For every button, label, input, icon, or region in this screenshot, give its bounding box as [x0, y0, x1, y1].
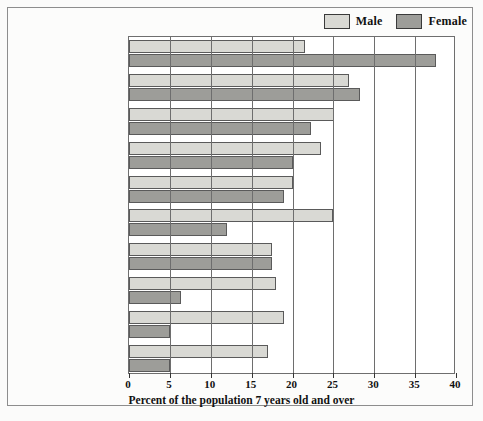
bar-male — [129, 209, 333, 222]
gridline — [252, 37, 253, 373]
x-tick-label: 35 — [409, 378, 420, 390]
bar-row: Fishing (fresh water) — [129, 206, 454, 240]
x-tick-label: 20 — [286, 378, 297, 390]
gridline — [293, 37, 294, 373]
bar-female — [129, 359, 170, 372]
bar-male — [129, 277, 276, 290]
gridline — [170, 37, 171, 373]
x-tick-label: 0 — [125, 378, 131, 390]
legend-swatch-female — [396, 14, 422, 29]
x-tick-label: 30 — [368, 378, 379, 390]
x-tick-label: 15 — [245, 378, 256, 390]
gridline — [374, 37, 375, 373]
bar-male — [129, 311, 284, 324]
bar-row: Swimming — [129, 71, 454, 105]
bar-male — [129, 243, 272, 256]
bar-row: Bowling — [129, 172, 454, 206]
x-tick-label: 40 — [450, 378, 461, 390]
bar-female — [129, 54, 436, 67]
bar-female — [129, 223, 227, 236]
bar-female — [129, 88, 360, 101]
legend-item-female: Female — [396, 14, 467, 29]
bar-female — [129, 325, 170, 338]
bar-female — [129, 122, 311, 135]
legend-item-male: Male — [324, 14, 383, 29]
legend-label: Male — [356, 14, 383, 29]
bar-row: Exercising withequipment — [129, 240, 454, 274]
bar-male — [129, 74, 349, 87]
x-axis-label: Percent of the population 7 years old an… — [0, 394, 483, 406]
bar-row: Exercise walking — [129, 37, 454, 71]
x-tick-label: 5 — [166, 378, 172, 390]
chart-figure: MaleFemale Exercise walkingSwimmingBicyc… — [0, 0, 483, 421]
bar-male — [129, 40, 305, 53]
bar-rows: Exercise walkingSwimmingBicycle ridingCa… — [129, 37, 454, 373]
x-tick-label: 10 — [204, 378, 215, 390]
bar-male — [129, 108, 334, 121]
gridline — [333, 37, 334, 373]
bar-female — [129, 257, 272, 270]
legend-swatch-male — [324, 14, 350, 29]
bar-row: Aerobic exercising — [129, 307, 454, 341]
x-tick-label: 25 — [327, 378, 338, 390]
gridline — [415, 37, 416, 373]
legend-label: Female — [428, 14, 467, 29]
bar-male — [129, 345, 268, 358]
gridline — [211, 37, 212, 373]
bar-row: Golf — [129, 341, 454, 375]
bar-row: Camping — [129, 138, 454, 172]
bar-female — [129, 190, 284, 203]
bar-row: Bicycle riding — [129, 105, 454, 139]
bar-row: Basketball — [129, 274, 454, 308]
bar-female — [129, 291, 181, 304]
plot-area: Exercise walkingSwimmingBicycle ridingCa… — [128, 36, 455, 374]
chart-legend: MaleFemale — [324, 14, 467, 29]
